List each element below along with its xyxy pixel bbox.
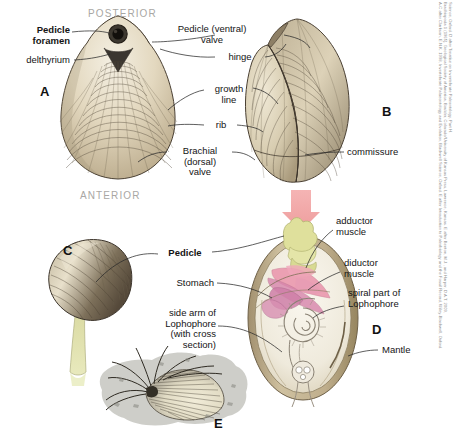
label-side-arm-lophophore: side arm of Lophophore (with cross secti… [128, 308, 216, 350]
specimen-letter-e: E [214, 416, 223, 431]
label-spiral-lophophore: spiral part of Lophophore [348, 288, 400, 309]
orientation-anterior: ANTERIOR [80, 190, 140, 201]
label-growth-line: growth line [206, 84, 252, 105]
label-commissure: commissure [347, 147, 398, 158]
label-adductor-muscle: adductor muscle [336, 216, 373, 237]
credit-text: Science, Oxford. D after Treatise on Inv… [441, 2, 455, 442]
specimen-letter-a: A [40, 84, 49, 99]
label-mantle: Mantle [382, 345, 411, 356]
specimen-letter-d: D [372, 322, 381, 337]
orientation-posterior: POSTERIOR [88, 8, 157, 19]
label-pedicle: Pedicle [160, 248, 210, 259]
specimen-letter-c: C [63, 243, 72, 258]
label-pedicle-valve: Pedicle (ventral) valve [158, 24, 266, 45]
specimen-e-fossil [100, 346, 248, 425]
label-hinge: hinge [218, 52, 262, 63]
label-brachial-valve: Brachial (dorsal) valve [170, 146, 230, 178]
specimen-letter-b: B [382, 104, 391, 119]
label-diductor-muscle: diductor muscle [344, 258, 378, 279]
label-delthyrium: delthyrium [0, 55, 70, 66]
brachiopod-figure: POSTERIOR ANTERIOR A B C D E Pedicle for… [0, 0, 456, 447]
label-rib: rib [207, 120, 235, 131]
figure-artwork [0, 0, 456, 447]
specimen-d-anatomy [248, 218, 358, 407]
label-stomach: Stomach [150, 278, 214, 289]
label-pedicle-foramen: Pedicle foramen [0, 25, 70, 46]
